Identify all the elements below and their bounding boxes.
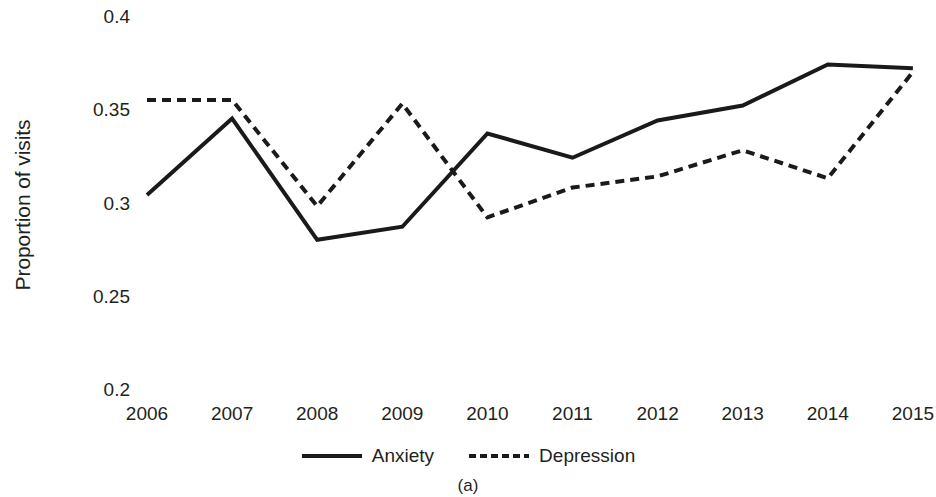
figure-caption: (a) — [0, 476, 936, 496]
legend-entry-anxiety: Anxiety — [301, 446, 434, 465]
x-axis-tick-label: 2012 — [636, 404, 678, 423]
legend-line-solid-icon — [301, 450, 363, 462]
x-axis-tick-label: 2013 — [722, 404, 764, 423]
x-axis-tick-label: 2010 — [466, 404, 508, 423]
x-axis-tick-label: 2015 — [892, 404, 934, 423]
x-axis-tick-label: 2006 — [126, 404, 168, 423]
x-axis-tick-label: 2009 — [381, 404, 423, 423]
chart-legend: Anxiety Depression — [0, 446, 936, 465]
x-axis-tick-label: 2014 — [807, 404, 849, 423]
legend-entry-depression: Depression — [468, 446, 635, 465]
legend-label-anxiety: Anxiety — [372, 446, 434, 465]
x-axis-tick-label: 2011 — [552, 404, 593, 423]
legend-label-depression: Depression — [539, 446, 635, 465]
x-axis-tick-label: 2008 — [296, 404, 338, 423]
plot-area — [0, 0, 936, 400]
figure-chart-a: Proportion of visits 0.40.350.30.250.2 2… — [0, 0, 936, 497]
x-axis-tick-label: 2007 — [211, 404, 253, 423]
series-line-anxiety — [147, 64, 913, 239]
legend-line-dashed-icon — [468, 450, 530, 462]
